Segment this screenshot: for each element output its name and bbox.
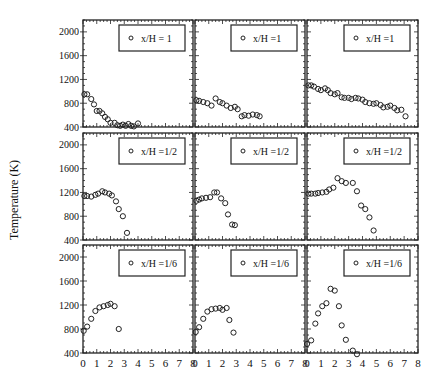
panel-1-1: x/H =1/2: [194, 133, 305, 240]
x-tick-label: 6: [275, 357, 281, 369]
legend-label: x/H =1/2: [366, 146, 402, 157]
legend-label: x/H =1/6: [253, 258, 289, 269]
x-tick-label: 0: [80, 357, 86, 369]
y-tick-label: 800: [64, 324, 79, 335]
x-tick-label: 0: [304, 357, 310, 369]
y-tick-label: 2000: [59, 139, 79, 150]
legend: x/H =1/2: [119, 138, 185, 164]
legend-label: x/H =1/6: [366, 258, 402, 269]
chart-figure: 400800120016002000x/H = 1x/H =1x/H =1400…: [0, 0, 440, 390]
x-tick-label: 6: [388, 357, 394, 369]
x-tick-label: 2: [108, 357, 114, 369]
legend-label: x/H = 1: [141, 33, 172, 44]
panel-1-0: 400800120016002000x/H =1/2: [59, 133, 193, 246]
panel-2-0: 400800120016002000012345678x/H =1/6: [59, 245, 196, 369]
panel-2-2: 012345678x/H =1/6: [304, 245, 421, 369]
legend: x/H =1/6: [119, 250, 185, 276]
legend: x/H =1/6: [231, 250, 297, 276]
x-tick-label: 7: [289, 357, 295, 369]
panel-0-0: 400800120016002000x/H = 1: [59, 20, 193, 133]
panel-1-2: x/H =1/2: [306, 133, 418, 240]
legend-label: x/H =1/6: [141, 258, 177, 269]
y-tick-label: 1200: [59, 74, 79, 85]
panel-0-1: x/H =1: [194, 20, 305, 127]
x-tick-label: 5: [374, 357, 380, 369]
legend: x/H = 1: [119, 25, 185, 51]
legend-label: x/H =1: [253, 33, 281, 44]
y-tick-label: 800: [64, 98, 79, 109]
x-tick-label: 2: [220, 357, 226, 369]
x-tick-label: 0: [192, 357, 198, 369]
legend: x/H =1/2: [344, 138, 410, 164]
y-tick-label: 1600: [59, 163, 79, 174]
y-tick-label: 1600: [59, 50, 79, 61]
x-tick-label: 3: [346, 357, 352, 369]
y-tick-label: 400: [64, 348, 79, 359]
x-tick-label: 1: [318, 357, 324, 369]
x-tick-label: 5: [149, 357, 155, 369]
legend: x/H =1: [231, 25, 297, 51]
legend: x/H =1/6: [344, 250, 410, 276]
x-tick-label: 7: [401, 357, 407, 369]
legend: x/H =1: [344, 25, 410, 51]
x-tick-label: 7: [177, 357, 183, 369]
x-tick-label: 1: [94, 357, 100, 369]
x-tick-label: 2: [332, 357, 338, 369]
x-tick-label: 1: [206, 357, 212, 369]
x-tick-label: 8: [415, 357, 421, 369]
legend-label: x/H =1/2: [253, 146, 289, 157]
y-tick-label: 2000: [59, 252, 79, 263]
legend-label: x/H =1: [366, 33, 394, 44]
y-tick-label: 400: [64, 122, 79, 133]
x-tick-label: 4: [247, 357, 253, 369]
x-tick-label: 4: [135, 357, 141, 369]
panel-0-2: x/H =1: [306, 20, 418, 127]
panel-2-1: 012345678x/H =1/6: [192, 245, 308, 369]
y-tick-label: 400: [64, 235, 79, 246]
y-tick-label: 800: [64, 211, 79, 222]
x-tick-label: 6: [163, 357, 169, 369]
x-tick-label: 3: [122, 357, 128, 369]
legend-label: x/H =1/2: [141, 146, 177, 157]
x-tick-label: 4: [360, 357, 366, 369]
y-tick-label: 1200: [59, 300, 79, 311]
x-tick-label: 3: [234, 357, 240, 369]
y-tick-label: 1200: [59, 187, 79, 198]
y-tick-label: 2000: [59, 26, 79, 37]
x-tick-label: 5: [261, 357, 267, 369]
legend: x/H =1/2: [231, 138, 297, 164]
y-tick-label: 1600: [59, 276, 79, 287]
